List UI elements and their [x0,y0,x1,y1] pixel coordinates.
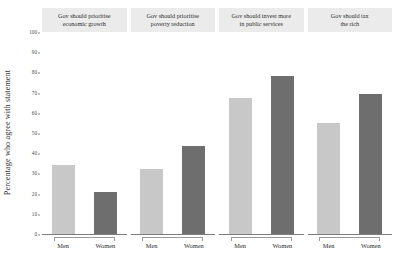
panel-title: Gov should taxthe rich [308,8,393,32]
y-axis-tick-label: 70 [32,91,37,96]
x-axis-labels: MenWomen [219,242,304,249]
y-axis-tick-mark [38,134,41,135]
y-axis-tick-mark [38,33,41,34]
y-axis-tick-label: 20 [32,192,37,197]
bar-women[interactable] [271,76,294,234]
panel-title: Gov should invest morein public services [219,8,304,32]
bar-women[interactable] [359,94,382,234]
x-axis-bracket [54,237,115,241]
y-axis-tick-mark [38,154,41,155]
y-axis-tick-label: 50 [32,131,37,136]
x-axis: MenWomen [131,235,216,257]
y-axis-tick-label: 80 [32,71,37,76]
y-axis-tick-mark [38,53,41,54]
chart-panel: Gov should prioritisepoverty reductionMe… [131,8,216,260]
bar-men[interactable] [229,98,252,234]
bar-group [219,33,304,234]
y-axis-tick-label: 40 [32,152,37,157]
panel-title-line: economic growth [58,20,111,28]
x-axis-label-men: Men [312,242,346,249]
panel-title-line: poverty reduction [146,20,199,28]
bar-group [42,33,127,234]
x-axis-label-women: Women [354,242,388,249]
x-axis-label-women: Women [265,242,299,249]
x-axis-label-women: Women [88,242,122,249]
x-axis: MenWomen [42,235,127,257]
y-axis-tick-label: 10 [32,212,37,217]
y-axis-tick-mark [38,113,41,114]
x-axis-labels: MenWomen [42,242,127,249]
bar-women[interactable] [94,192,117,234]
panel-plot-area [219,33,304,235]
x-axis: MenWomen [219,235,304,257]
panel-title-line: Gov should prioritise [58,12,111,20]
bar-men[interactable] [317,123,340,234]
panel-title-text: Gov should prioritiseeconomic growth [58,12,111,28]
panel-plot-area [42,33,127,235]
panel-title: Gov should prioritiseeconomic growth [42,8,127,32]
chart-panel: Gov should invest morein public services… [219,8,304,260]
panel-title-line: the rich [331,20,369,28]
x-axis-bracket [231,237,292,241]
y-axis: 0102030405060708090100 [16,33,40,235]
x-axis-label-women: Women [177,242,211,249]
x-axis: MenWomen [308,235,393,257]
panel-title-line: Gov should prioritise [146,12,199,20]
y-axis-title: Percentage who agree with statement [0,0,16,264]
bar-men[interactable] [52,165,75,234]
panel-title-line: in public services [232,20,291,28]
y-axis-tick-label: 90 [32,51,37,56]
panel-title-line: Gov should invest more [232,12,291,20]
y-axis-tick-label: 0 [34,232,37,237]
y-axis-tick-label: 30 [32,172,37,177]
y-axis-tick-mark [38,194,41,195]
x-axis-bracket [319,237,380,241]
bar-group [308,33,393,234]
x-axis-label-men: Men [135,242,169,249]
panel-title-text: Gov should invest morein public services [232,12,291,28]
x-axis-label-men: Men [223,242,257,249]
x-axis-labels: MenWomen [308,242,393,249]
y-axis-tick-mark [38,235,41,236]
y-axis-tick-mark [38,93,41,94]
bar-group [131,33,216,234]
y-axis-tick-label: 60 [32,111,37,116]
panel-title-text: Gov should taxthe rich [331,12,369,28]
panel-title-text: Gov should prioritisepoverty reduction [146,12,199,28]
x-axis-labels: MenWomen [131,242,216,249]
y-axis-tick-mark [38,214,41,215]
panel-title: Gov should prioritisepoverty reduction [131,8,216,32]
panel-container: Gov should prioritiseeconomic growthMenW… [42,8,392,260]
x-axis-label-men: Men [46,242,80,249]
chart-panel: Gov should taxthe richMenWomen [308,8,393,260]
chart-panel: Gov should prioritiseeconomic growthMenW… [42,8,127,260]
y-axis-tick-mark [38,174,41,175]
y-axis-title-label: Percentage who agree with statement [4,69,13,194]
panel-title-line: Gov should tax [331,12,369,20]
y-axis-tick-label: 100 [29,30,37,35]
panel-plot-area [308,33,393,235]
bar-men[interactable] [140,169,163,234]
faceted-bar-chart: Percentage who agree with statement 0102… [0,0,394,264]
panel-plot-area [131,33,216,235]
bar-women[interactable] [182,146,205,234]
x-axis-bracket [142,237,203,241]
y-axis-tick-mark [38,73,41,74]
